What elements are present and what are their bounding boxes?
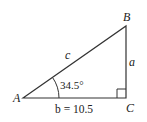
vertex-label-C: C (126, 101, 135, 115)
side-label-c: c (65, 48, 71, 62)
angle-label-A: 34.5° (60, 79, 84, 91)
vertex-label-B: B (123, 10, 131, 24)
angle-arc-A (53, 77, 60, 98)
right-angle-marker (117, 89, 126, 98)
side-label-b: b = 10.5 (55, 103, 93, 115)
vertex-label-A: A (12, 91, 21, 105)
side-label-a: a (129, 55, 135, 69)
triangle-diagram: A B C c a b = 10.5 34.5° (0, 0, 147, 122)
